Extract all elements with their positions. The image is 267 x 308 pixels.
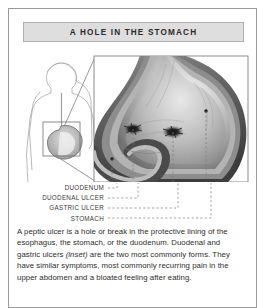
leader-stomach	[108, 183, 211, 218]
caption-text: A peptic ulcer is a hole or break in the…	[17, 226, 239, 283]
leader-gastric-ulcer	[108, 183, 178, 208]
leader-duodenal-ulcer	[108, 183, 138, 198]
caption-emphasis: (inset)	[66, 250, 88, 259]
figure-title-bar: A HOLE IN THE STOMACH	[23, 22, 244, 42]
inset-stomach	[47, 125, 82, 159]
illustration-area	[16, 54, 251, 182]
stomach-illustration	[16, 54, 251, 182]
leader-duodenum	[108, 183, 117, 188]
page-title: A HOLE IN THE STOMACH	[70, 28, 197, 37]
leader-lines	[16, 183, 251, 225]
label-callouts: DUODENUM DUODENAL ULCER GASTRIC ULCER ST…	[16, 183, 251, 225]
